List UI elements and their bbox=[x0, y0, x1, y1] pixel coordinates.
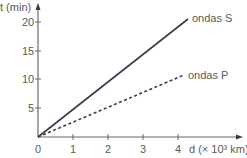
y-tick-label-20: 20 bbox=[22, 16, 34, 28]
y-axis-label: t (min) bbox=[0, 1, 31, 13]
x-tick-label-4: 4 bbox=[175, 143, 181, 155]
x-tick-label-3: 3 bbox=[140, 143, 146, 155]
series-line-ondas-p bbox=[38, 75, 184, 137]
y-tick-label-10: 10 bbox=[22, 73, 34, 85]
y-axis-arrow-icon bbox=[36, 3, 41, 10]
origin-label: 0 bbox=[35, 143, 41, 155]
x-tick-label-1: 1 bbox=[70, 143, 76, 155]
y-tick-label-5: 5 bbox=[28, 102, 34, 114]
y-tick-label-15: 15 bbox=[22, 45, 34, 57]
x-axis-label: d (× 10³ km) bbox=[189, 143, 247, 155]
series-line-ondas-s bbox=[38, 19, 188, 137]
x-axis-arrow-icon bbox=[236, 135, 243, 140]
series-label-ondas-p: ondas P bbox=[188, 69, 228, 81]
chart: t (min) 20 15 10 5 0 1 2 3 4 d (× 10³ km… bbox=[0, 0, 247, 158]
series-label-ondas-s: ondas S bbox=[192, 12, 232, 24]
x-tick-label-2: 2 bbox=[105, 143, 111, 155]
